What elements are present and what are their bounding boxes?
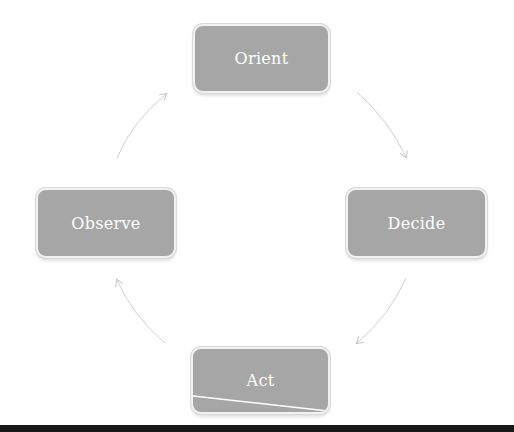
arrow-orient-to-decide: [357, 92, 406, 157]
ooda-cycle-diagram: Orient Decide Act Observe: [0, 0, 514, 432]
arrow-act-to-observe: [117, 280, 165, 343]
node-observe-label: Observe: [71, 214, 140, 233]
node-act: Act: [191, 347, 330, 414]
arrow-decide-to-act: [357, 278, 406, 343]
node-orient-label: Orient: [235, 49, 289, 68]
arrow-observe-to-orient: [117, 94, 166, 158]
node-decide: Decide: [346, 188, 487, 258]
node-decide-label: Decide: [388, 214, 446, 233]
node-orient: Orient: [193, 24, 330, 93]
node-act-label: Act: [247, 371, 275, 390]
bottom-border-bar: [0, 425, 514, 432]
node-observe: Observe: [36, 188, 176, 258]
